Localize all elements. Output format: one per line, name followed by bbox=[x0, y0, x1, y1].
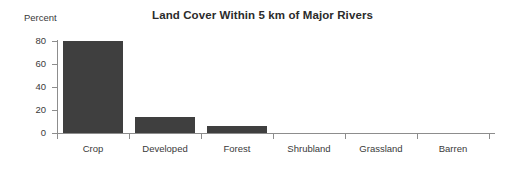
bar-developed bbox=[135, 117, 195, 133]
bar-crop bbox=[63, 41, 123, 133]
x-tick-4 bbox=[345, 133, 346, 139]
bar-chart-figure: Land Cover Within 5 km of Major Rivers P… bbox=[0, 0, 525, 169]
x-tick-2 bbox=[201, 133, 202, 139]
x-tick-6 bbox=[489, 133, 490, 139]
bar-forest bbox=[207, 126, 267, 133]
x-tick-1 bbox=[129, 133, 130, 139]
x-tick-5 bbox=[417, 133, 418, 139]
x-axis-line bbox=[57, 133, 495, 134]
x-tick-0 bbox=[57, 133, 58, 139]
x-tick-label-barren: Barren bbox=[403, 144, 503, 154]
bars-layer bbox=[0, 0, 525, 133]
x-tick-3 bbox=[273, 133, 274, 139]
